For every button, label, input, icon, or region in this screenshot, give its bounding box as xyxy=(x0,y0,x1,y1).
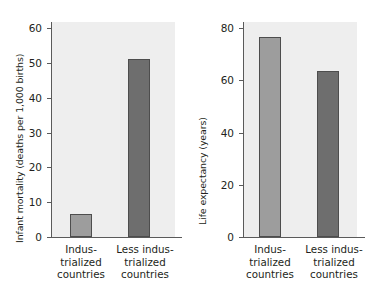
x-category-label-left-less-industrialized: Less indus- trialized countries xyxy=(110,243,180,281)
x-category-label-right-less-industrialized: Less indus- trialized countries xyxy=(299,243,367,281)
y-tick-left-10 xyxy=(47,202,51,203)
y-tick-label-left-10: 10 xyxy=(22,196,42,208)
y-tick-left-60 xyxy=(47,28,51,29)
y-tick-label-left-30: 30 xyxy=(22,127,42,139)
y-tick-right-0 xyxy=(239,237,243,238)
y-tick-label-left-60: 60 xyxy=(22,22,42,34)
x-category-label-left-industrialized: Indus- trialized countries xyxy=(51,243,111,281)
bar-left-industrialized xyxy=(70,214,92,237)
y-tick-label-right-40: 40 xyxy=(213,127,234,139)
y-tick-label-right-80: 80 xyxy=(213,22,234,34)
y-tick-label-right-0: 0 xyxy=(213,231,234,243)
y-tick-left-20 xyxy=(47,167,51,168)
x-category-label-right-industrialized: Indus- trialized countries xyxy=(240,243,300,281)
x-axis-line-left xyxy=(51,237,182,238)
x-axis-line-right xyxy=(243,237,365,238)
bar-left-less-industrialized xyxy=(128,59,150,237)
chart-panel-life-expectancy: Life expectancy (years) 80 60 40 20 0 In… xyxy=(183,0,367,296)
y-tick-right-40 xyxy=(239,133,243,134)
figure-two-bar-charts: Infant mortality (deaths per 1,000 birth… xyxy=(0,0,367,296)
bar-right-less-industrialized xyxy=(317,71,339,237)
y-tick-right-20 xyxy=(239,185,243,186)
y-tick-label-left-20: 20 xyxy=(22,161,42,173)
y-tick-label-left-50: 50 xyxy=(22,57,42,69)
plot-area-infant-mortality xyxy=(51,22,175,238)
y-tick-label-right-20: 20 xyxy=(213,179,234,191)
y-axis-line-right xyxy=(243,22,244,238)
y-tick-right-80 xyxy=(239,28,243,29)
chart-panel-infant-mortality: Infant mortality (deaths per 1,000 birth… xyxy=(0,0,184,296)
y-tick-left-30 xyxy=(47,133,51,134)
y-tick-left-50 xyxy=(47,63,51,64)
y-tick-label-right-60: 60 xyxy=(213,74,234,86)
bar-right-industrialized xyxy=(259,37,281,237)
y-axis-line-left xyxy=(51,22,52,238)
y-axis-title-life-expectancy: Life expectancy (years) xyxy=(197,0,211,225)
y-tick-label-left-0: 0 xyxy=(22,231,42,243)
y-tick-left-40 xyxy=(47,98,51,99)
y-tick-left-0 xyxy=(47,237,51,238)
y-tick-label-left-40: 40 xyxy=(22,92,42,104)
y-tick-right-60 xyxy=(239,80,243,81)
